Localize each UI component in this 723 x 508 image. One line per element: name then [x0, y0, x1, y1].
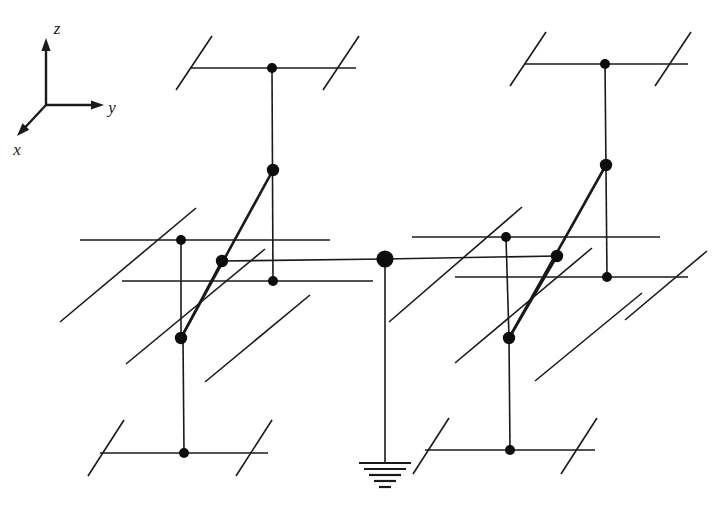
lattice-edge — [510, 32, 546, 86]
lattice-edge — [60, 208, 196, 322]
lattice-node-n-right-base — [503, 332, 515, 344]
lattice-nodes — [175, 59, 612, 458]
axis-line-x — [24, 105, 46, 129]
lattice-node-n-left-low — [268, 276, 278, 286]
lattice-thick-bonds — [181, 165, 606, 338]
axis-label-x: x — [12, 140, 21, 159]
lattice-edge — [535, 293, 642, 381]
lattice-node-n-bottom-left — [179, 448, 189, 458]
lattice-edge — [561, 418, 597, 474]
lattice-node-n-right-outer — [501, 232, 511, 242]
lattice-node-n-left-outer — [176, 235, 186, 245]
lattice-edge — [126, 249, 265, 364]
lattice-node-n-top-right — [600, 59, 610, 69]
axis-arrowhead-z — [41, 38, 50, 51]
lattice-edge — [205, 295, 310, 382]
earth-ground-icon — [359, 463, 411, 487]
lattice-node-n-right-low — [602, 272, 612, 282]
lattice-node-n-left-base — [175, 332, 187, 344]
axis-arrowhead-y — [91, 100, 104, 109]
lattice-edge — [183, 338, 184, 453]
lattice-node-n-upper-left-mid — [267, 164, 279, 176]
lattice-edge — [455, 248, 592, 363]
diagram-canvas: z y x — [0, 0, 723, 508]
lattice-edge — [506, 237, 509, 338]
lattice-edge — [509, 338, 510, 450]
axis-label-y: y — [106, 98, 116, 117]
lattice-figure: z y x — [0, 0, 723, 508]
lattice-node-n-center-ground — [376, 250, 393, 267]
lattice-edge — [413, 418, 449, 474]
lattice-node-n-top-left — [267, 63, 277, 73]
lattice-node-n-left-inner — [216, 255, 228, 267]
lattice-edge — [222, 259, 385, 261]
lattice-node-n-right-inner — [551, 250, 563, 262]
lattice-edge — [625, 251, 707, 320]
lattice-edge — [385, 256, 557, 259]
lattice-bond — [181, 261, 222, 338]
lattice-edge — [655, 32, 691, 86]
lattice-bond — [509, 256, 557, 338]
lattice-edge — [389, 207, 522, 322]
lattice-node-n-bottom-right — [505, 445, 515, 455]
lattice-edge — [88, 420, 124, 476]
lattice-edge — [323, 36, 359, 90]
lattice-edge — [236, 420, 272, 476]
axis-label-z: z — [53, 19, 61, 38]
lattice-node-n-upper-right-mid — [600, 159, 612, 171]
lattice-edge — [176, 36, 212, 90]
coordinate-axes: z y x — [12, 19, 116, 159]
